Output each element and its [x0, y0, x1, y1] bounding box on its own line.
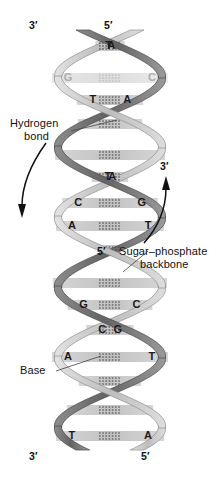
base-letter-right: T — [146, 350, 158, 362]
left-arrow-head — [18, 204, 26, 218]
end-label-backbone: 5′ — [97, 246, 106, 258]
end-label-top-right: 5′ — [104, 20, 113, 32]
sugar-phosphate-label-line1: Sugar–phosphate — [119, 245, 207, 257]
sugar-phosphate-label-line2: backbone — [140, 258, 189, 270]
dna-strand-dark — [54, 286, 165, 358]
base-letter-left: A — [66, 219, 78, 231]
base-letter-right: T — [142, 219, 154, 231]
end-label-bottom-left: 3′ — [29, 451, 38, 463]
base-letter-left: T — [87, 93, 99, 105]
base-letter-right: G — [136, 196, 148, 208]
base-letter-left: A — [62, 350, 74, 362]
base-letter-left: C — [72, 196, 84, 208]
left-arrow-shaft — [22, 143, 46, 206]
hydrogen-bond-label-line2: bond — [24, 130, 49, 142]
dna-strand-light — [54, 76, 165, 148]
base-letter-right: A — [142, 429, 154, 441]
base-letter-left: G — [78, 298, 90, 310]
end-label-top-left: 3′ — [29, 20, 38, 32]
base-letter-right: G — [112, 323, 124, 335]
base-letter-right: C — [146, 71, 158, 83]
base-letter-right: T — [103, 39, 115, 51]
end-label-middle-right: 3′ — [160, 161, 169, 173]
base-label: Base — [20, 364, 45, 376]
base-letter-left: C — [96, 323, 108, 335]
base-letter-right: A — [106, 170, 118, 182]
end-label-bottom-right: 5′ — [141, 451, 150, 463]
dna-strand-light — [54, 356, 165, 428]
base-letter-right: A — [121, 93, 133, 105]
dna-helix-figure: 3′ 5′ 3′ 5′ 3′ 5′ Hydrogen bond Sugar–ph… — [0, 0, 221, 478]
hydrogen-bond-label-line1: Hydrogen — [10, 117, 59, 129]
dna-helix-illustration — [0, 0, 221, 478]
right-arrow-head — [162, 176, 170, 190]
base-letter-left: T — [66, 429, 78, 441]
base-letter-right: C — [130, 298, 142, 310]
base-letter-left: G — [62, 71, 74, 83]
